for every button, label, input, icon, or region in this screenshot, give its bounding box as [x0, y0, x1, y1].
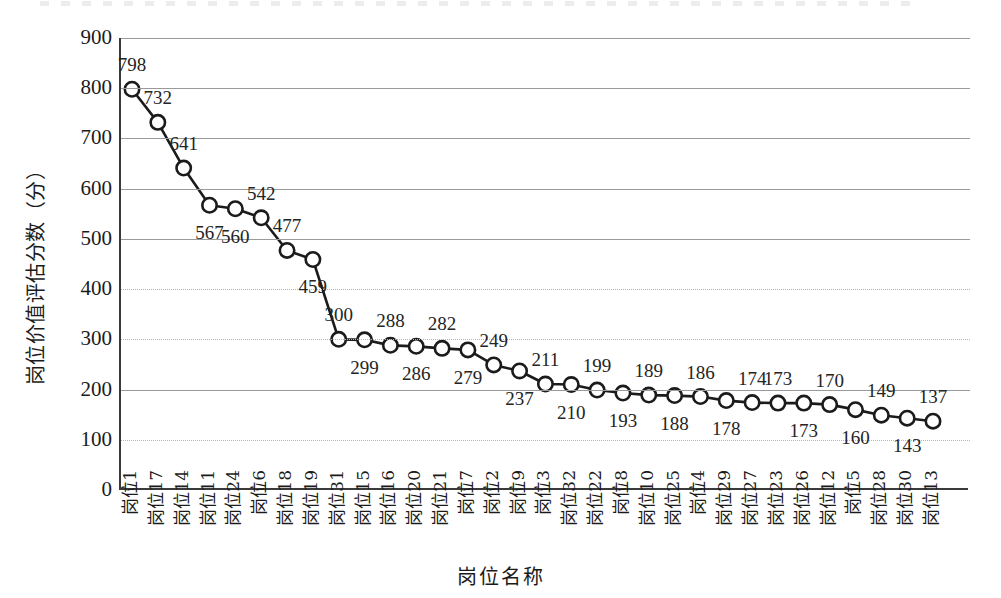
x-axis-category-labels: 岗位1岗位17岗位14岗位11岗位24岗位6岗位18岗位19岗位31岗位15岗位…: [119, 492, 968, 562]
x-category-label: 岗位31: [324, 470, 350, 540]
x-category-label: 岗位17: [143, 470, 169, 540]
x-category-label: 岗位27: [737, 470, 763, 540]
data-label: 170: [803, 371, 857, 390]
x-category-label: 岗位22: [582, 470, 608, 540]
data-label: 286: [389, 364, 443, 383]
data-label: 560: [208, 227, 262, 246]
y-tick-label: 0: [56, 479, 112, 500]
data-label: 173: [751, 369, 805, 388]
y-tick-label: 900: [56, 27, 112, 48]
x-category-label: 岗位28: [866, 470, 892, 540]
data-point-marker: [280, 243, 294, 257]
gridline: [121, 88, 970, 89]
x-category-label: 岗位5: [840, 470, 866, 540]
y-tick-label: 200: [56, 379, 112, 400]
data-label: 249: [467, 331, 521, 350]
x-category-label: 岗位18: [272, 470, 298, 540]
data-point-marker: [926, 414, 940, 428]
x-category-label: 岗位16: [375, 470, 401, 540]
x-category-label: 岗位23: [763, 470, 789, 540]
data-point-marker: [176, 161, 190, 175]
gridline: [121, 289, 970, 290]
x-category-label: 岗位12: [815, 470, 841, 540]
x-category-label: 岗位26: [789, 470, 815, 540]
data-label: 459: [286, 277, 340, 296]
y-tick-label: 100: [56, 429, 112, 450]
data-series-line: [121, 38, 970, 490]
gridline: [121, 138, 970, 139]
data-point-marker: [435, 341, 449, 355]
data-point-marker: [771, 396, 785, 410]
data-point-marker: [616, 386, 630, 400]
data-label: 178: [699, 419, 753, 438]
x-category-label: 岗位19: [298, 470, 324, 540]
data-label: 282: [415, 314, 469, 333]
data-label: 299: [338, 358, 392, 377]
x-category-label: 岗位30: [892, 470, 918, 540]
data-label: 210: [544, 403, 598, 422]
job-value-evaluation-chart: 岗位价值评估分数（分） 9008007006005004003002001000…: [0, 0, 1001, 598]
x-category-label: 岗位8: [608, 470, 634, 540]
data-label: 732: [131, 88, 185, 107]
data-point-marker: [745, 395, 759, 409]
x-category-label: 岗位11: [195, 470, 221, 540]
y-tick-label: 400: [56, 278, 112, 299]
data-label: 798: [105, 55, 159, 74]
x-category-label: 岗位25: [660, 470, 686, 540]
data-label: 193: [596, 411, 650, 430]
data-point-marker: [151, 115, 165, 129]
data-label: 189: [622, 361, 676, 380]
x-category-label: 岗位15: [350, 470, 376, 540]
x-category-label: 岗位4: [685, 470, 711, 540]
data-point-marker: [228, 202, 242, 216]
data-label: 199: [570, 356, 624, 375]
data-label: 279: [441, 368, 495, 387]
data-label: 477: [260, 216, 314, 235]
x-category-label: 岗位6: [246, 470, 272, 540]
data-label: 143: [880, 436, 934, 455]
data-point-marker: [797, 396, 811, 410]
y-axis-tick-labels: 9008007006005004003002001000: [50, 0, 112, 598]
x-category-label: 岗位2: [479, 470, 505, 540]
x-category-label: 岗位29: [711, 470, 737, 540]
y-axis-title: 岗位价值评估分数（分）: [20, 53, 49, 493]
gridline: [121, 339, 970, 340]
data-point-marker: [848, 402, 862, 416]
x-category-label: 岗位20: [401, 470, 427, 540]
scan-artifact: [40, 1, 920, 6]
y-tick-label: 800: [56, 77, 112, 98]
data-label: 300: [312, 305, 366, 324]
data-label: 211: [518, 350, 572, 369]
data-point-marker: [202, 198, 216, 212]
plot-area: 7987326415675605424774593002992882862822…: [119, 38, 968, 490]
gridline: [121, 38, 970, 39]
data-label: 149: [854, 381, 908, 400]
data-label: 641: [157, 134, 211, 153]
data-label: 542: [234, 184, 288, 203]
data-label: 186: [673, 363, 727, 382]
data-label: 137: [906, 387, 960, 406]
x-category-label: 岗位7: [453, 470, 479, 540]
y-tick-label: 500: [56, 228, 112, 249]
data-point-marker: [409, 339, 423, 353]
y-tick-label: 700: [56, 127, 112, 148]
x-category-label: 岗位3: [530, 470, 556, 540]
x-category-label: 岗位32: [556, 470, 582, 540]
data-point-marker: [306, 252, 320, 266]
x-category-label: 岗位24: [220, 470, 246, 540]
y-tick-label: 600: [56, 178, 112, 199]
data-point-marker: [719, 393, 733, 407]
x-category-label: 岗位14: [169, 470, 195, 540]
y-tick-label: 300: [56, 328, 112, 349]
data-label: 188: [648, 414, 702, 433]
x-category-label: 岗位9: [505, 470, 531, 540]
x-category-label: 岗位10: [634, 470, 660, 540]
data-point-marker: [874, 408, 888, 422]
data-label: 173: [777, 421, 831, 440]
data-point-marker: [693, 389, 707, 403]
data-label: 237: [493, 389, 547, 408]
x-category-label: 岗位21: [427, 470, 453, 540]
data-point-marker: [822, 397, 836, 411]
x-axis-title: 岗位名称: [0, 561, 1001, 590]
x-category-label: 岗位13: [918, 470, 944, 540]
